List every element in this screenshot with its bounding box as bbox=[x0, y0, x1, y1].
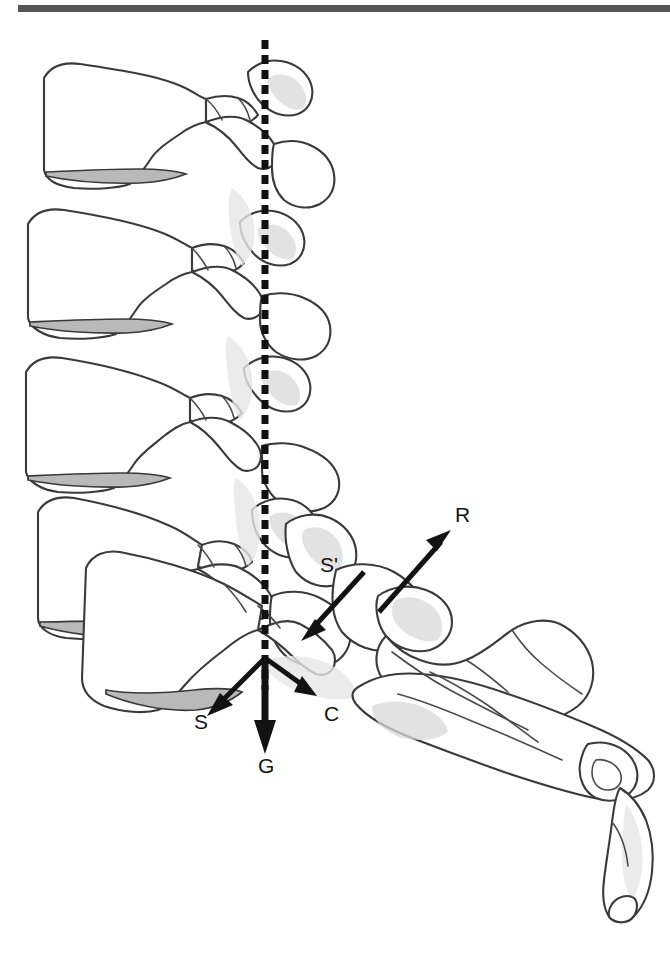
vector-label-C: C bbox=[324, 702, 339, 725]
spine-biomechanics-figure: .bone { fill:#ffffff; stroke:#3a3a3a; st… bbox=[0, 0, 670, 957]
vector-label-S: S bbox=[194, 710, 208, 733]
vector-label-G: G bbox=[258, 754, 274, 777]
figure-root: .bone { fill:#ffffff; stroke:#3a3a3a; st… bbox=[0, 0, 670, 957]
vector-label-S-prime: S' bbox=[320, 553, 338, 576]
horizontal-rule bbox=[18, 5, 670, 12]
vector-label-R: R bbox=[455, 503, 470, 526]
